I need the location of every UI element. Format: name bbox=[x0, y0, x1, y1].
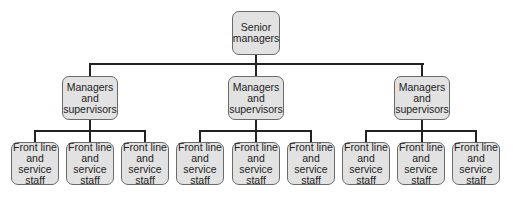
senior-managers-node: Senior managers bbox=[232, 11, 280, 55]
connector-manager-1-up bbox=[89, 63, 91, 76]
staff-node-3-1: Front line and service staff bbox=[342, 142, 390, 185]
staff-node-1-3: Front line and service staff bbox=[121, 142, 169, 185]
staff-label: Front line and service staff bbox=[453, 142, 499, 186]
manager-node-1: Managers and supervisors bbox=[62, 76, 118, 120]
staff-label: Front line and service staff bbox=[288, 142, 334, 186]
staff-node-2-1: Front line and service staff bbox=[176, 142, 224, 185]
staff-label: Front line and service staff bbox=[122, 142, 168, 186]
manager-label: Managers and supervisors bbox=[229, 82, 283, 115]
staff-label: Front line and service staff bbox=[12, 142, 58, 186]
staff-node-3-3: Front line and service staff bbox=[452, 142, 500, 185]
staff-node-3-2: Front line and service staff bbox=[397, 142, 445, 185]
manager-label: Managers and supervisors bbox=[63, 82, 117, 115]
connector-manager-3-up bbox=[421, 63, 423, 76]
staff-label: Front line and service staff bbox=[233, 142, 279, 186]
connector-manager-2-up bbox=[255, 63, 257, 76]
staff-label: Front line and service staff bbox=[398, 142, 444, 186]
staff-node-1-1: Front line and service staff bbox=[11, 142, 59, 185]
staff-node-2-2: Front line and service staff bbox=[232, 142, 280, 185]
staff-label: Front line and service staff bbox=[67, 142, 113, 186]
manager-label: Managers and supervisors bbox=[395, 82, 449, 115]
staff-node-2-3: Front line and service staff bbox=[287, 142, 335, 185]
staff-label: Front line and service staff bbox=[177, 142, 223, 186]
staff-label: Front line and service staff bbox=[343, 142, 389, 186]
manager-node-2: Managers and supervisors bbox=[228, 76, 284, 120]
senior-managers-label: Senior managers bbox=[233, 22, 280, 44]
staff-node-1-2: Front line and service staff bbox=[66, 142, 114, 185]
manager-node-3: Managers and supervisors bbox=[394, 76, 450, 120]
